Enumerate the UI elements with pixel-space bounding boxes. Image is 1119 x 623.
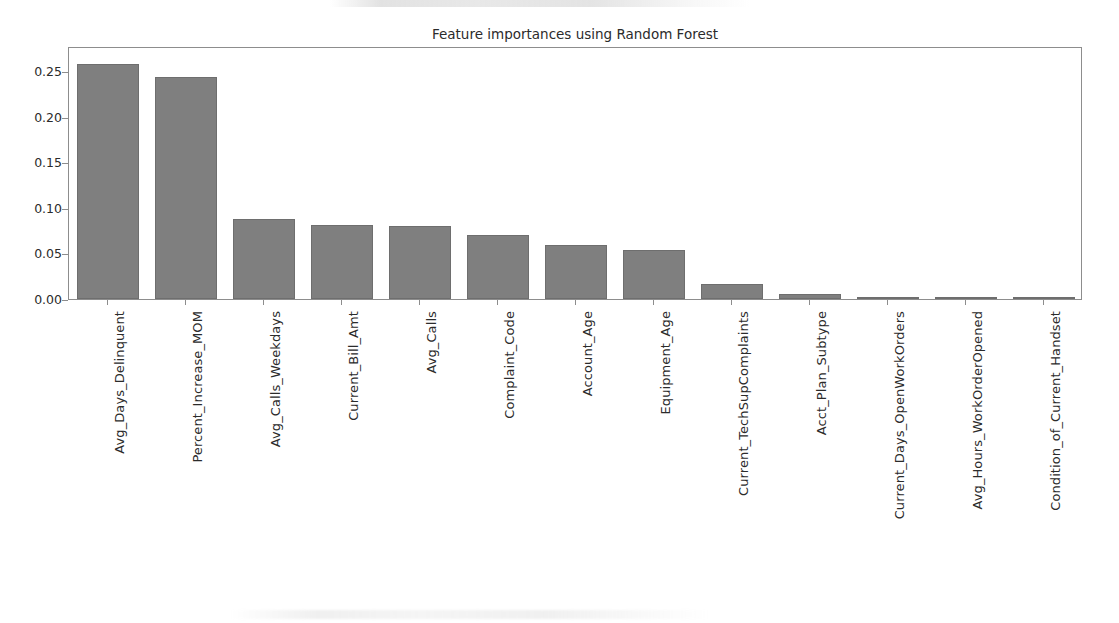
bar [935, 297, 997, 299]
y-tick-label: 0.20 [34, 112, 62, 125]
x-tick-label: Acct_Plan_Subtype [815, 311, 828, 435]
x-tick-label: Current_Days_OpenWorkOrders [893, 311, 906, 519]
y-tick-label: 0.15 [34, 157, 62, 170]
x-tick-mark [965, 300, 966, 305]
x-tick-mark [887, 300, 888, 305]
bar [233, 219, 295, 299]
x-tick-mark [575, 300, 576, 305]
plot-area [68, 47, 1082, 300]
x-tick-mark [263, 300, 264, 305]
y-tick-label: 0.25 [34, 66, 62, 79]
bar [1013, 297, 1075, 299]
x-tick-mark [107, 300, 108, 305]
x-tick-label: Complaint_Code [503, 311, 516, 419]
y-tick-label: 0.00 [34, 294, 62, 307]
bar [623, 250, 685, 299]
x-tick-mark [1043, 300, 1044, 305]
bar [857, 297, 919, 299]
bar [311, 225, 373, 299]
x-tick-label: Equipment_Age [659, 311, 672, 415]
bar [701, 284, 763, 299]
x-tick-label: Condition_of_Current_Handset [1049, 311, 1062, 511]
x-tick-mark [653, 300, 654, 305]
x-tick-mark [731, 300, 732, 305]
bar [467, 235, 529, 299]
page-bleed-artifact-bottom [230, 610, 710, 619]
x-tick-label: Current_Bill_Amt [347, 311, 360, 421]
x-tick-label: Account_Age [581, 311, 594, 396]
x-tick-mark [497, 300, 498, 305]
x-tick-label: Avg_Days_Delinquent [113, 311, 126, 454]
x-tick-mark [341, 300, 342, 305]
y-tick-label: 0.10 [34, 203, 62, 216]
bar [389, 226, 451, 299]
bar-series [69, 48, 1081, 299]
bar [779, 294, 841, 299]
bar [155, 77, 217, 299]
y-tick-mark [62, 300, 68, 301]
y-tick-label: 0.05 [34, 248, 62, 261]
x-tick-label: Avg_Calls [425, 311, 438, 374]
x-tick-label: Avg_Calls_Weekdays [269, 311, 282, 447]
bar [77, 64, 139, 299]
page-bleed-artifact-top [330, 0, 750, 7]
chart-title: Feature importances using Random Forest [68, 26, 1082, 42]
x-tick-label: Percent_Increase_MOM [191, 311, 204, 463]
x-tick-mark [185, 300, 186, 305]
figure-canvas: Feature importances using Random Forest … [0, 0, 1119, 623]
x-tick-label: Current_TechSupComplaints [737, 311, 750, 496]
x-tick-label: Avg_Hours_WorkOrderOpened [971, 311, 984, 510]
bar [545, 245, 607, 299]
x-tick-mark [809, 300, 810, 305]
x-tick-mark [419, 300, 420, 305]
